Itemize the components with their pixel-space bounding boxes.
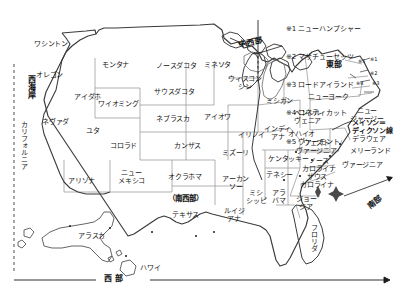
florida-outline (292, 205, 324, 264)
state-label-tennessee: テネシー (266, 172, 293, 180)
state-label-illinois: イリノイ (238, 132, 265, 140)
marker-rhode-island: ※3 (372, 80, 379, 86)
region-label-west-coast: 西海岸 (16, 66, 34, 110)
state-label-new-york: ニューヨーク (308, 94, 349, 102)
state-label-pennsylvania: ペンシル ヴェニア (294, 110, 321, 125)
state-label-utah: ユタ (86, 128, 100, 136)
state-label-arkansas: アーカン ソー (222, 176, 249, 191)
legend-marker: ※2 (286, 53, 298, 62)
state-label-delaware: デラウェア (352, 136, 386, 144)
state-label-kansas: カンザス (174, 143, 201, 151)
state-label-south-dakota: サウスダコタ (154, 89, 195, 97)
state-label-michigan: ミシガン (266, 98, 293, 106)
state-label-hawaii: ハワイ (140, 265, 160, 273)
state-label-missouri: ミズーリ (222, 150, 249, 158)
state-label-oregon: オレゴン (36, 72, 63, 80)
state-label-washington: ワシントン (34, 41, 68, 49)
state-label-arizona: アリゾナ (68, 178, 95, 186)
state-label-south-carolina: サウス カロライナ (300, 174, 334, 189)
west-coast-outline (42, 30, 110, 194)
legend-item: ※2マサチューセッツ (286, 53, 361, 62)
state-label-virginia: ヴァージニア (342, 162, 383, 170)
state-label-iowa: アイオワ (204, 114, 231, 122)
marker-connecticut: ※4 (356, 80, 363, 86)
marker-new-hampshire: ※1 (370, 56, 377, 62)
annotation-mason-dixon-line: メイソン＝ ディクソン線 (352, 120, 393, 135)
legend-label: ロードアイランド (298, 81, 354, 90)
state-label-wyoming: ワイオミング (98, 101, 139, 109)
legend-label: ニューハンプシャー (298, 25, 361, 34)
state-label-alaska: アラスカ (78, 233, 105, 241)
state-label-nebraska: ネブラスカ (156, 116, 190, 124)
marker-vermont: ※5 (358, 58, 365, 64)
state-label-new-mexico: ニュー メキシコ (118, 170, 145, 185)
west-region-arrow (14, 277, 390, 283)
state-label-louisiana: ルイジ アナ (224, 208, 244, 223)
legend-item: ※3ロードアイランド (286, 81, 361, 90)
legend-marker: ※1 (286, 25, 298, 34)
region-label-east: 東部 (326, 58, 342, 69)
region-west-coast-text: 西海岸 (27, 75, 34, 99)
state-label-wisconsin: ウィスコン シン (228, 76, 262, 91)
south-region-pointer (344, 176, 393, 196)
state-label-nevada: ネヴァダ (42, 119, 69, 127)
marker-massachusetts: ※2 (370, 70, 377, 76)
state-label-california: カリフォルニア (20, 110, 27, 180)
state-label-alabama: アラ バマ (272, 190, 286, 205)
us-map-japanese: ※1ニューハンプシャー ※2マサチューセッツ ※3ロードアイランド ※4コネティ… (0, 0, 409, 299)
state-label-north-dakota: ノースダコタ (156, 63, 197, 71)
state-label-florida: フロリダ (310, 214, 317, 262)
state-label-oklahoma: オクラホマ (168, 174, 202, 182)
state-label-georgia: ジョー ジア (296, 196, 316, 211)
region-label-southwest: （南西部） (168, 192, 203, 203)
state-label-maryland: メリーランド (350, 148, 391, 156)
state-label-montana: モンタナ (102, 62, 129, 70)
state-label-north-carolina: ノース カロライナ (302, 158, 336, 173)
state-label-ohio: オハイオ (288, 131, 315, 139)
state-label-texas: テキサス (172, 212, 199, 220)
state-label-colorado: コロラド (110, 143, 137, 151)
legend-marker: ※3 (286, 81, 298, 90)
state-label-mississippi: ミシ シッピ (246, 190, 266, 205)
state-label-minnesota: ミネソタ (204, 62, 231, 70)
legend-item: ※1ニューハンプシャー (286, 25, 361, 34)
region-label-west: 西部 (104, 272, 126, 283)
state-label-west-virginia: ウェスト ヴァージニア (296, 140, 337, 155)
